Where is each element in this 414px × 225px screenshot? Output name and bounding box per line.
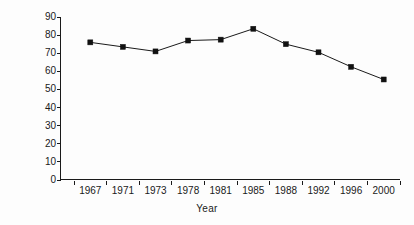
data-point-marker: [120, 44, 125, 49]
data-point-marker: [88, 40, 93, 45]
x-axis-title: Year: [0, 203, 414, 214]
y-axis-tick-label: 30: [34, 121, 56, 131]
data-point-marker: [381, 77, 386, 82]
data-point-marker: [251, 26, 256, 31]
y-axis-tick-label: 10: [34, 157, 56, 167]
y-axis-tick-label: 40: [34, 103, 56, 113]
data-point-marker: [153, 49, 158, 54]
data-point-marker: [349, 64, 354, 69]
y-axis-tick-label: 50: [34, 84, 56, 94]
line-chart: Voting turnout 0102030405060708090 19671…: [0, 0, 414, 225]
y-axis-tick-label: 60: [34, 66, 56, 76]
y-axis-ticks: [57, 17, 61, 180]
y-axis-tick-label: 70: [34, 48, 56, 58]
data-point-marker: [218, 37, 223, 42]
x-axis-ticks: [74, 181, 400, 185]
series-line-voting-turnout: [90, 29, 383, 80]
plot-area: [60, 17, 400, 180]
x-axis-tick-label: 2000: [364, 185, 404, 196]
data-point-marker: [186, 38, 191, 43]
x-axis-tick-labels: 1967197119731978198119851988199219962000: [60, 185, 400, 199]
y-axis-tick-label: 0: [34, 175, 56, 185]
plot-svg: [60, 17, 400, 180]
data-point-marker: [316, 50, 321, 55]
y-axis-tick-labels: 0102030405060708090: [30, 0, 56, 225]
y-axis-tick-label: 90: [34, 12, 56, 22]
axes: [61, 17, 401, 180]
y-axis-tick-label: 80: [34, 30, 56, 40]
y-axis-tick-label: 20: [34, 139, 56, 149]
data-point-marker: [283, 42, 288, 47]
